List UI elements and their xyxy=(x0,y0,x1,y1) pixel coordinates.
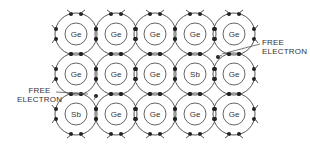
atom-symbol: Ge xyxy=(229,30,240,39)
crystal-lattice: GeGeGeGeGeGeGeGeSbGeSbGeGeGeGe xyxy=(0,0,310,147)
electron-dot xyxy=(133,77,137,81)
electron-dot xyxy=(237,52,241,56)
electron-dot xyxy=(119,52,123,56)
electron-dot xyxy=(109,92,113,96)
electron-dot xyxy=(109,52,113,56)
electron-dot xyxy=(173,77,177,81)
atom-symbol: Ge xyxy=(150,110,161,119)
free-electron-label-right: FREE ELECTRON xyxy=(262,38,307,56)
atom-symbol: Sb xyxy=(71,110,81,119)
electron-dot xyxy=(133,37,137,41)
electron-dot xyxy=(158,92,162,96)
atom-symbol: Ge xyxy=(150,30,161,39)
electron-dot xyxy=(69,52,73,56)
electron-dot xyxy=(173,37,177,41)
leader-line xyxy=(222,44,260,54)
electron-dot xyxy=(212,67,216,71)
free-electron-label-left: FREE ELECTRON xyxy=(17,86,62,104)
electron-dot xyxy=(173,67,177,71)
atom-symbol: Ge xyxy=(111,110,122,119)
electron-dot xyxy=(148,52,152,56)
electron-dot xyxy=(94,107,98,111)
label-line: FREE xyxy=(262,38,307,47)
electron-dot xyxy=(237,92,241,96)
label-line: FREE xyxy=(17,86,62,95)
label-line: ELECTRON xyxy=(17,95,62,104)
electron-dot xyxy=(173,107,177,111)
electron-dot xyxy=(212,27,216,31)
atom-symbol: Ge xyxy=(150,70,161,79)
atom-symbol: Ge xyxy=(111,70,122,79)
electron-dot xyxy=(212,117,216,121)
electron-dot xyxy=(188,52,192,56)
electron-dot xyxy=(173,27,177,31)
electron-dot xyxy=(173,117,177,121)
electron-dot xyxy=(133,67,137,71)
atom-symbol: Ge xyxy=(190,30,201,39)
electron-dot xyxy=(148,92,152,96)
atom-symbol: Ge xyxy=(190,110,201,119)
atom-symbol: Ge xyxy=(229,70,240,79)
label-line: ELECTRON xyxy=(262,47,307,56)
electron-dot xyxy=(94,67,98,71)
electron-dot xyxy=(198,92,202,96)
electron-dot xyxy=(94,27,98,31)
atom-symbol: Ge xyxy=(71,30,82,39)
atom-symbol: Sb xyxy=(190,70,200,79)
atom-symbol: Ge xyxy=(111,30,122,39)
electron-dot xyxy=(212,107,216,111)
electron-dot xyxy=(133,107,137,111)
electron-dot xyxy=(119,92,123,96)
electron-dot xyxy=(133,117,137,121)
electron-dot xyxy=(79,52,83,56)
electron-dot xyxy=(133,27,137,31)
electron-dot xyxy=(188,92,192,96)
electron-dot xyxy=(94,117,98,121)
electron-dot xyxy=(227,92,231,96)
electron-dot xyxy=(94,37,98,41)
electron-dot xyxy=(94,77,98,81)
atom-symbol: Ge xyxy=(229,110,240,119)
atom-symbol: Ge xyxy=(71,70,82,79)
electron-dot xyxy=(212,37,216,41)
electron-dot xyxy=(158,52,162,56)
electron-dot xyxy=(198,52,202,56)
electron-dot xyxy=(212,77,216,81)
